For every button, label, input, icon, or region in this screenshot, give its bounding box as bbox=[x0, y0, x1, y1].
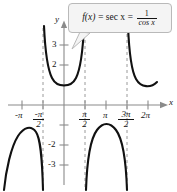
callout-sec-expression: sec x bbox=[106, 13, 125, 23]
y-tick-label-2: 2 bbox=[52, 60, 57, 69]
callout-fraction: 1 cos x bbox=[137, 10, 157, 27]
secant-function-figure: f(x) = sec x = 1 cos x y x 3 2 -2 -3 -π … bbox=[0, 0, 177, 192]
neg-half-pi-numerator: π bbox=[38, 109, 43, 119]
y-axis-label: y bbox=[55, 15, 59, 24]
x-tick-label-three-half-pi: 3π 2 bbox=[118, 110, 134, 129]
callout-numerator: 1 bbox=[143, 10, 151, 18]
callout-denominator: cos x bbox=[137, 19, 157, 27]
callout-equals-2: = bbox=[125, 13, 135, 23]
callout-equals-1: = bbox=[95, 13, 105, 23]
x-tick-label-two-pi: 2π bbox=[141, 111, 150, 120]
x-tick-label-neg-half-pi: -π 2 bbox=[33, 110, 44, 129]
y-tick-label-3: 3 bbox=[52, 40, 57, 49]
x-tick-label-half-pi: π 2 bbox=[79, 110, 90, 129]
y-tick-label-neg2: -2 bbox=[48, 140, 56, 149]
formula-callout: f(x) = sec x = 1 cos x bbox=[68, 3, 172, 33]
callout-function-name: f(x) bbox=[82, 13, 95, 23]
neg-half-pi-denominator: 2 bbox=[36, 120, 41, 129]
half-pi-numerator: π bbox=[82, 110, 87, 119]
x-axis-label: x bbox=[169, 98, 173, 107]
y-tick-label-neg3: -3 bbox=[48, 160, 56, 169]
x-tick-label-neg-pi: -π bbox=[15, 111, 23, 120]
x-tick-label-pi: π bbox=[103, 111, 108, 120]
three-half-pi-numerator: 3π bbox=[121, 110, 130, 119]
half-pi-denominator: 2 bbox=[82, 120, 87, 129]
three-half-pi-denominator: 2 bbox=[124, 120, 129, 129]
